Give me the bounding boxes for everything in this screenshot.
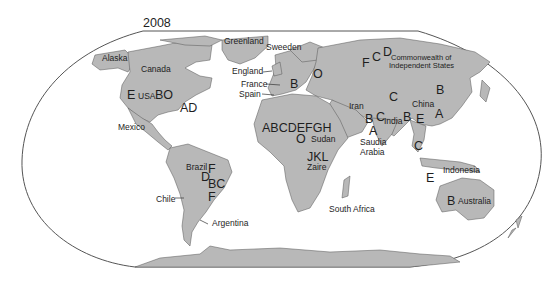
label-france: France [241,80,267,89]
label-china-a: A [435,108,443,121]
label-usa: USA [138,92,155,101]
label-atlantic-letters-ad: AD [180,102,197,115]
label-australia: Australia [458,197,491,206]
label-india: India [384,117,402,126]
label-central-asia-c: C [389,91,398,104]
label-cis-c: C [372,51,381,64]
label-europe-o: O [313,68,323,81]
label-seasia-b: B [403,111,411,124]
label-seasia-c: C [414,140,423,153]
label-arabia: Arabia [360,148,385,157]
label-greenland: Greenland [224,37,264,46]
label-chile: Chile [156,195,175,204]
label-arabia-a: A [369,125,377,138]
label-zaire: Zaire [307,163,326,172]
label-australia-b: B [447,195,455,208]
label-usa-letter-e: E [127,89,135,102]
label-sudan: Sudan [311,135,336,144]
label-china: China [412,100,434,109]
label-iran: Iran [349,102,364,111]
label-england: England [232,67,263,76]
label-sweeden: Sweeden [266,43,301,52]
label-europe-b: B [290,78,298,91]
label-africa-o: O [296,133,306,146]
label-saudia: Saudia [360,138,386,147]
label-brazil-bc: BC [208,178,225,191]
label-indonesia: Indonesia [443,166,480,175]
label-brazil-f2: F [208,191,216,204]
map-title: 2008 [143,17,171,30]
label-mexico: Mexico [118,123,145,132]
label-usa-letters-bo: BO [155,89,173,102]
label-seasia-e: E [416,113,424,126]
label-cis-line2: Independent States [389,62,454,70]
label-alaska: Alaska [102,54,128,63]
label-china-b: B [436,84,444,97]
label-south-africa: South Africa [329,205,375,214]
label-cis-f: F [362,57,370,70]
label-indonesia-e: E [426,172,434,185]
label-argentina: Argentina [212,219,248,228]
label-canada: Canada [141,65,171,74]
label-spain: Spain [239,90,261,99]
